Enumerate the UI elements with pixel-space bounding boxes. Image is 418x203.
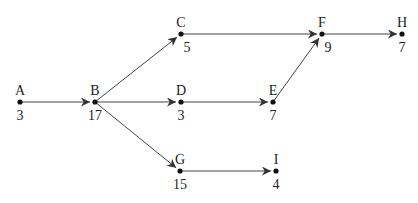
node-d: D3 [176, 83, 186, 123]
node-label: E [269, 83, 278, 98]
edges [22, 34, 397, 171]
node-dot [178, 99, 183, 104]
node-dot [273, 168, 278, 173]
node-i: I4 [273, 152, 280, 192]
edge-b-c [97, 37, 178, 101]
node-dot [177, 168, 182, 173]
node-value: 9 [325, 40, 332, 55]
node-label: F [318, 15, 326, 30]
node-value: 7 [270, 108, 277, 123]
node-dot [92, 99, 97, 104]
node-b: B17 [88, 83, 102, 123]
node-value: 3 [17, 108, 24, 123]
node-dot [399, 31, 404, 36]
node-c: C5 [176, 15, 190, 55]
node-label: G [175, 152, 185, 167]
edge-b-g [97, 103, 177, 168]
node-label: A [15, 83, 26, 98]
node-dot [178, 31, 183, 36]
node-e: E7 [269, 83, 278, 123]
node-dot [319, 31, 324, 36]
node-dot [17, 99, 22, 104]
node-value: 4 [273, 177, 280, 192]
node-value: 7 [399, 40, 406, 55]
node-h: H7 [397, 15, 407, 55]
node-value: 5 [184, 40, 191, 55]
node-value: 15 [173, 177, 187, 192]
node-a: A3 [15, 83, 26, 123]
edge-e-f [274, 38, 319, 100]
node-label: C [176, 15, 185, 30]
node-dot [270, 99, 275, 104]
node-f: F9 [318, 15, 331, 55]
network-diagram: A3B17C5D3E7F9H7G15I4 [0, 0, 418, 203]
node-label: H [397, 15, 407, 30]
node-label: D [176, 83, 186, 98]
node-label: B [90, 83, 99, 98]
node-value: 17 [88, 108, 102, 123]
node-label: I [274, 152, 279, 167]
node-g: G15 [173, 152, 187, 192]
nodes: A3B17C5D3E7F9H7G15I4 [15, 15, 407, 192]
node-value: 3 [178, 108, 185, 123]
